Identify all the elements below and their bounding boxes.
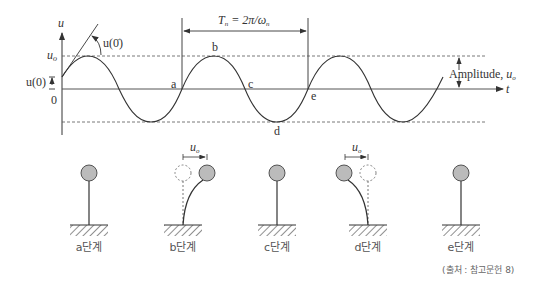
- point-a-label: a: [171, 77, 177, 91]
- initial-velocity-label: u(0̇): [103, 36, 123, 50]
- mass-ball-icon: [199, 165, 215, 181]
- slope-angle-arc: [92, 36, 101, 55]
- displacement-label: uo: [190, 140, 200, 155]
- stage-c: c단계: [258, 165, 296, 254]
- u0-label: u(0): [26, 75, 46, 89]
- stage-b-label: b단계: [170, 241, 197, 254]
- stage-e-label: e단계: [448, 241, 475, 254]
- period-label: Tn = 2π/ωn: [218, 13, 270, 28]
- stage-a: a단계: [70, 165, 108, 254]
- point-e-label: e: [311, 89, 316, 103]
- stage-e: e단계: [442, 165, 480, 254]
- mass-ball-icon: [336, 165, 352, 181]
- mass-ball-icon: [453, 165, 469, 181]
- point-b-label: b: [212, 40, 218, 54]
- source-citation: (출처 : 참고문헌 8): [442, 264, 514, 275]
- stage-d-label: d단계: [355, 241, 382, 254]
- stage-b: uo b단계: [164, 140, 215, 254]
- y-axis-label: u: [58, 16, 64, 30]
- point-c-label: c: [248, 77, 253, 91]
- rest-position-circle-icon: [360, 165, 376, 181]
- rest-position-circle-icon: [175, 165, 191, 181]
- point-d-label: d: [274, 124, 280, 138]
- free-vibration-diagram: u uo u(0) 0 u(0̇) Tn = 2π/ωn a b c d e A…: [0, 0, 543, 286]
- t-axis-label: t: [506, 82, 510, 96]
- uo-label: uo: [47, 48, 57, 63]
- stage-c-label: c단계: [264, 241, 290, 254]
- zero-label: 0: [51, 93, 57, 107]
- mass-ball-icon: [269, 165, 285, 181]
- stage-a-label: a단계: [76, 241, 103, 254]
- displacement-label: uo: [352, 140, 362, 155]
- mass-ball-icon: [81, 165, 97, 181]
- initial-slope-line: [62, 24, 98, 77]
- stage-d: uo d단계: [336, 140, 387, 254]
- amplitude-label: Amplitude, uo: [449, 67, 516, 82]
